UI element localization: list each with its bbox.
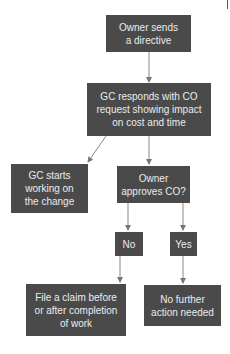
node-yes: Yes	[170, 232, 197, 256]
node-file-claim: File a claim before or after completion …	[26, 284, 126, 336]
node-no-action: No further action needed	[144, 285, 221, 326]
node-owner-approves: Owner approves CO?	[117, 166, 190, 203]
node-gc-starts: GC starts working on the change	[11, 164, 88, 213]
node-gc-responds: GC responds with CO request showing impa…	[87, 83, 211, 136]
edge-response-to-gc-starts	[88, 136, 106, 162]
node-no: No	[115, 232, 143, 256]
node-owner-directive: Owner sends a directive	[106, 15, 191, 52]
